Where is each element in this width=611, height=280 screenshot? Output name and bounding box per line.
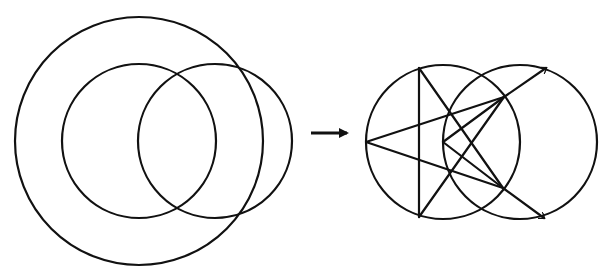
segment-AD [366, 97, 504, 142]
right-figure-construction [366, 65, 597, 219]
segment-AE [366, 142, 503, 188]
left-figure-circles [15, 17, 292, 265]
diagram-canvas: Left: a large circle containing two over… [0, 0, 611, 280]
arrow-segment-DT [504, 68, 546, 97]
arrow-segment-EU [503, 188, 544, 218]
diagram-svg [0, 0, 611, 280]
segment-FE [443, 142, 503, 188]
